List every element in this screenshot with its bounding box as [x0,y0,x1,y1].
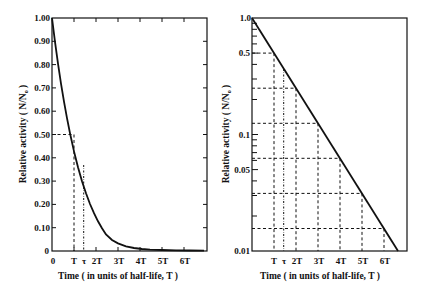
xtick-label: 2T [92,256,103,266]
y-axis-title: Relative activity ( N/No ) [18,85,29,184]
linear-decay-chart: 1.00 0.90 0.80 0.70 0.60 0.50 0.40 0.30 … [18,13,207,282]
ytick-label: 0.90 [34,36,50,46]
x-tick-labels: 0 T τ 2T 3T 4T 5T 6T [51,256,191,266]
xtick-label: 6T [380,256,391,266]
ytick-label: 0.80 [34,60,50,70]
plot-frame [252,18,407,251]
ytick-label: 0.50 [34,130,50,140]
xtick-label: 0 [51,256,56,266]
xtick-label: 2T [292,256,303,266]
y-axis-title: Relative activity ( N/No ) [221,85,232,184]
ytick-label: 0.30 [34,176,50,186]
plot-frame [52,18,207,251]
x-axis-title: Time ( in units of half-life, T ) [260,271,380,282]
xtick-label: T [71,256,77,266]
xtick-label: 3T [114,256,125,266]
xtick-label: τ [282,256,287,266]
log-decay-chart: 1.0 0.5 0.1 0.05 0.01 T τ 2T 3T 4T 5T 6T… [221,13,407,282]
ytick-label: 0 [45,246,50,256]
decay-curve [52,18,204,251]
ytick-label: 0.1 [239,130,251,140]
ytick-label: 0.60 [34,106,50,116]
xtick-label: 6T [180,256,191,266]
xtick-label: 4T [336,256,347,266]
ytick-label: 1.0 [240,13,252,23]
xtick-label: 3T [314,256,325,266]
v-guides [274,53,384,251]
xtick-label: T [271,256,277,266]
ytick-label: 0.40 [34,153,50,163]
xtick-label: τ [82,256,87,266]
xtick-label: 5T [358,256,369,266]
x-ticks [74,18,184,251]
decay-charts: 1.00 0.90 0.80 0.70 0.60 0.50 0.40 0.30 … [0,0,426,295]
y-ticks [52,41,207,227]
ytick-label: 0.10 [34,223,50,233]
x-axis-title: Time ( in units of half-life, T ) [58,271,178,282]
ytick-label: 0.01 [234,246,250,256]
decay-line [252,18,398,251]
ytick-label: 0.05 [234,165,250,175]
y-ticks [252,23,258,216]
xtick-label: 4T [136,256,147,266]
xtick-label: 5T [158,256,169,266]
ytick-label: 0.70 [34,83,50,93]
x-tick-labels: T τ 2T 3T 4T 5T 6T [271,256,390,266]
y-tick-labels: 1.00 0.90 0.80 0.70 0.60 0.50 0.40 0.30 … [34,13,50,256]
y-tick-labels: 1.0 0.5 0.1 0.05 0.01 [234,13,251,256]
ytick-label: 1.00 [34,13,50,23]
ytick-label: 0.20 [34,199,50,209]
ytick-label: 0.5 [239,48,251,58]
